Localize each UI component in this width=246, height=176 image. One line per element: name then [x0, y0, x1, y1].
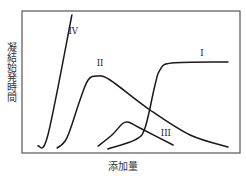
plot-frame [22, 11, 240, 153]
x-axis-label: 添加量 [0, 158, 246, 173]
chart: IIIIIIIV [0, 0, 246, 176]
curve-label-iii: III [161, 128, 171, 138]
curve-label-i: I [200, 48, 203, 58]
curve-iv [38, 15, 72, 148]
curve-label-ii: II [97, 58, 104, 68]
curve-label-iv: IV [68, 26, 78, 36]
y-axis-label: 凝結始発時間 [4, 42, 16, 102]
curve-ii [57, 76, 228, 148]
